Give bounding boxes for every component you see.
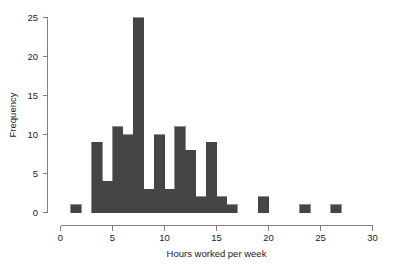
y-axis-title: Frequency	[7, 92, 18, 137]
histogram-bar	[258, 197, 268, 213]
histogram-bar	[154, 135, 164, 213]
histogram-bar	[144, 189, 154, 212]
histogram-bar	[175, 127, 185, 213]
histogram-bar	[71, 205, 81, 213]
x-tick-label: 0	[58, 232, 63, 243]
histogram-bar	[331, 205, 341, 213]
histogram-bar	[217, 197, 227, 213]
histogram-bar	[227, 205, 237, 213]
x-tick-label: 20	[263, 232, 274, 243]
histogram-bar	[165, 189, 175, 212]
y-axis-ticks: 0510152025	[27, 12, 47, 218]
x-tick-label: 25	[315, 232, 326, 243]
histogram-bar	[133, 18, 143, 213]
x-tick-label: 15	[211, 232, 222, 243]
y-tick-label: 5	[33, 168, 38, 179]
y-axis: 0510152025	[27, 12, 47, 218]
x-axis-title: Hours worked per week	[167, 248, 267, 259]
histogram-bar	[123, 135, 133, 213]
chart-canvas: 051015202530 0510152025 Hours worked per…	[0, 0, 394, 269]
histogram-bar	[206, 142, 216, 212]
y-tick-label: 10	[27, 129, 38, 140]
histogram-bar	[196, 197, 206, 213]
histogram-bar	[113, 127, 123, 213]
histogram-chart: 051015202530 0510152025 Hours worked per…	[0, 0, 394, 269]
y-tick-label: 0	[33, 207, 38, 218]
x-tick-label: 10	[159, 232, 170, 243]
x-tick-label: 5	[110, 232, 115, 243]
bars-group	[71, 18, 341, 213]
x-axis: 051015202530	[58, 226, 378, 244]
x-axis-ticks: 051015202530	[58, 226, 378, 244]
x-tick-label: 30	[367, 232, 378, 243]
histogram-bar	[185, 150, 195, 212]
y-tick-label: 25	[27, 12, 38, 23]
histogram-bar	[300, 205, 310, 213]
histogram-bar	[92, 142, 102, 212]
y-tick-label: 15	[27, 90, 38, 101]
histogram-bar	[102, 181, 112, 212]
y-tick-label: 20	[27, 51, 38, 62]
